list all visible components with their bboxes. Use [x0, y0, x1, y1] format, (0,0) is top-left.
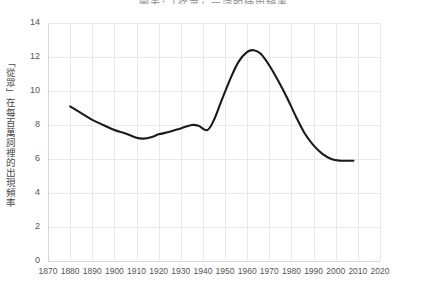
gridline-vertical	[380, 23, 381, 261]
chart-container: 圖表：「從眾」一詞的使用頻率 「從眾」在每百萬詞裡的出現頻率 024681012…	[0, 0, 426, 285]
x-axis-line	[48, 261, 380, 262]
y-tick-label: 10	[10, 85, 40, 95]
y-tick-label: 2	[10, 221, 40, 231]
y-tick-label: 8	[10, 119, 40, 129]
data-series-line	[48, 23, 380, 261]
y-tick-label: 0	[10, 255, 40, 265]
chart-title: 圖表：「從眾」一詞的使用頻率	[0, 0, 426, 4]
x-tick-label: 2020	[360, 266, 400, 276]
y-tick-label: 14	[10, 17, 40, 27]
y-tick-label: 12	[10, 51, 40, 61]
y-tick-label: 6	[10, 153, 40, 163]
y-tick-label: 4	[10, 187, 40, 197]
